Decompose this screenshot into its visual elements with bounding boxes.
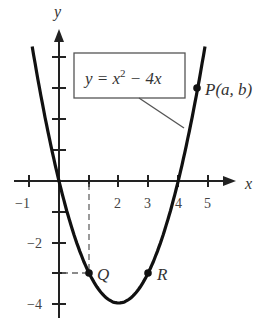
point-r-label: R bbox=[156, 265, 168, 284]
x-tick-label: 5 bbox=[204, 196, 211, 211]
point-r bbox=[144, 269, 152, 277]
point-q-label: Q bbox=[97, 265, 109, 284]
x-axis-arrow-icon bbox=[223, 176, 236, 186]
x-tick-label: 2 bbox=[114, 196, 121, 211]
y-axis-label: y bbox=[52, 3, 62, 21]
point-p-label: P(a, b) bbox=[204, 80, 253, 99]
parabola-graph: y = x2 − 4x P(a, b) Q R x y −1 2 3 4 5 −… bbox=[0, 0, 273, 335]
x-tick-label: 4 bbox=[175, 196, 182, 211]
point-q bbox=[85, 269, 93, 277]
y-axis-arrow-icon bbox=[54, 29, 64, 42]
x-tick-label: −1 bbox=[15, 196, 30, 211]
x-tick-label: 3 bbox=[144, 196, 151, 211]
y-tick-label: −2 bbox=[27, 236, 42, 251]
y-tick-label: −4 bbox=[27, 297, 42, 312]
x-axis-label: x bbox=[244, 175, 252, 192]
point-p bbox=[193, 84, 201, 92]
callout-leader-line bbox=[139, 98, 184, 128]
